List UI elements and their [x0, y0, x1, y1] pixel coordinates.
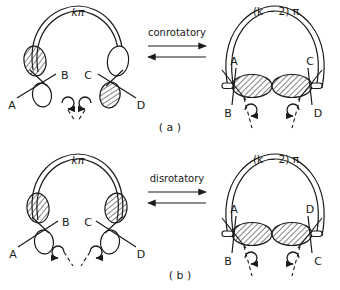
label-B-product-b: B [224, 255, 232, 268]
label-A-product-b: A [230, 203, 238, 216]
label-C-reactant-b: C [84, 216, 92, 229]
sigma-lobe-left [232, 75, 272, 98]
orbital-diagram-svg: kπ A B D C [0, 0, 340, 290]
ring-label-reactant-b: kπ [72, 154, 85, 167]
label-D-product-a: D [314, 107, 322, 120]
caption-b: ( b ) [169, 269, 192, 282]
product-ring-label-b: (k − 2) π [253, 153, 300, 165]
label-B-reactant-a: B [61, 69, 69, 82]
label-B-reactant-b: B [62, 216, 70, 229]
sigma-lobe-left-b [232, 223, 272, 246]
back-lobe-left-a [222, 83, 233, 89]
back-lobe-right-a [311, 83, 322, 89]
label-D-reactant-b: D [137, 248, 145, 261]
back-lobe-right-b [311, 231, 322, 237]
label-A-reactant-a: A [8, 99, 16, 112]
label-A-reactant-b: A [9, 248, 17, 261]
caption-a: ( a ) [159, 121, 181, 134]
label-D-reactant-a: D [137, 99, 145, 112]
label-C-product-b: C [314, 255, 322, 268]
figure-canvas: kπ A B D C [0, 0, 340, 290]
process-label-b: disrotatory [150, 173, 205, 184]
label-B-product-a: B [224, 107, 232, 120]
product-ring-label-a: (k − 2) π [253, 5, 300, 17]
sigma-lobe-right-b [272, 223, 312, 246]
process-label-a: conrotatory [148, 27, 206, 38]
ring-label-reactant: kπ [72, 6, 85, 19]
label-A-product-a: A [230, 55, 238, 68]
label-C-product-a: C [306, 55, 314, 68]
label-D-product-b: D [306, 203, 314, 216]
sigma-lobe-right [272, 75, 312, 98]
label-C-reactant-a: C [84, 69, 92, 82]
back-lobe-left-b [222, 231, 233, 237]
